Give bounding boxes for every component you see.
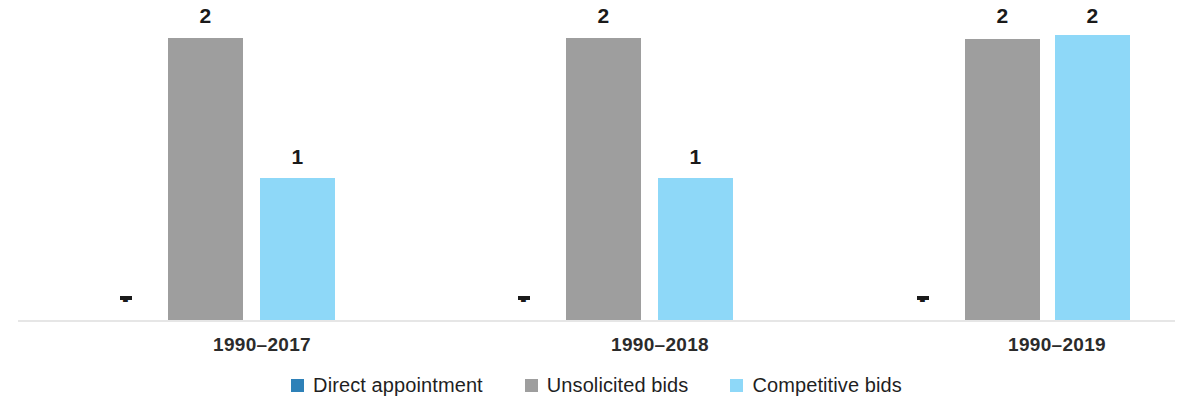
- zero-value-dash-marker: [518, 296, 530, 300]
- legend-item-competitive-bids[interactable]: Competitive bids: [730, 374, 901, 397]
- x-axis-baseline: [18, 320, 1175, 322]
- bar-competitive-bids: [1055, 35, 1130, 320]
- legend-item-unsolicited-bids[interactable]: Unsolicited bids: [525, 374, 689, 397]
- bar-value-label: -: [885, 289, 960, 311]
- legend-item-label: Direct appointment: [313, 374, 483, 397]
- x-axis-category-label: 1990–2017: [132, 334, 392, 356]
- bar-unsolicited-bids: [965, 39, 1040, 320]
- legend-item-direct-appointment[interactable]: Direct appointment: [291, 374, 483, 397]
- bar-value-label: 2: [566, 4, 641, 28]
- x-axis-category-label: 1990–2018: [530, 334, 790, 356]
- chart-legend: Direct appointment Unsolicited bids Comp…: [0, 374, 1193, 397]
- legend-swatch-icon: [525, 379, 538, 392]
- x-axis-category-label: 1990–2019: [927, 334, 1187, 356]
- bar-value-label: 2: [1055, 4, 1130, 28]
- bar-value-label: 2: [168, 4, 243, 28]
- bar-competitive-bids: [260, 178, 335, 320]
- legend-item-label: Unsolicited bids: [547, 374, 689, 397]
- bar-competitive-bids: [658, 178, 733, 320]
- bar-group: - 2 1 1990–2017: [82, 0, 342, 322]
- zero-value-dash-marker: [120, 296, 132, 300]
- bar-value-label: 1: [658, 145, 733, 169]
- zero-value-dash-marker: [917, 296, 929, 300]
- bar-group: - 2 1 1990–2018: [480, 0, 740, 322]
- bar-value-label: 1: [260, 145, 335, 169]
- bar-unsolicited-bids: [168, 38, 243, 320]
- legend-item-label: Competitive bids: [752, 374, 901, 397]
- legend-swatch-icon: [730, 379, 743, 392]
- bar-group: - 2 2 1990–2019: [879, 0, 1139, 322]
- bar-value-label: 2: [965, 4, 1040, 28]
- legend-swatch-icon: [291, 379, 304, 392]
- plot-area: - 2 1 1990–2017 - 2 1 1990–2018 - 2 2: [0, 0, 1193, 322]
- bar-chart: - 2 1 1990–2017 - 2 1 1990–2018 - 2 2: [0, 0, 1193, 406]
- bar-value-label: -: [486, 289, 561, 311]
- bar-value-label: -: [88, 289, 163, 311]
- bar-unsolicited-bids: [566, 38, 641, 320]
